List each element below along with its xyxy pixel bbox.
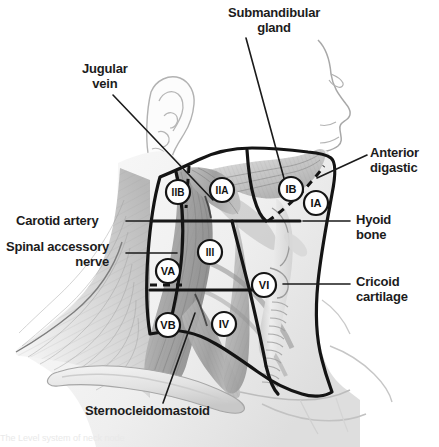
callout-hyoid-bone-line: Hyoid bbox=[356, 213, 391, 228]
level-IV[interactable]: IV bbox=[212, 312, 236, 336]
level-VA[interactable]: VA bbox=[156, 259, 180, 283]
callout-submandibular-gland-line: gland bbox=[228, 21, 320, 36]
level-IV-text: IV bbox=[219, 318, 230, 330]
level-IB[interactable]: IB bbox=[279, 177, 303, 201]
callout-jugular-vein-line: vein bbox=[82, 77, 128, 92]
callout-anterior-digastic-line: digastic bbox=[370, 161, 419, 176]
callout-spinal-accessory-nerve: Spinal accessorynerve bbox=[6, 240, 109, 269]
callout-hyoid-bone: Hyoidbone bbox=[356, 213, 391, 242]
level-IA[interactable]: IA bbox=[304, 191, 328, 215]
callout-submandibular-gland: Submandibulargland bbox=[228, 6, 320, 35]
callout-cricoid-cartilage-line: Cricoid bbox=[356, 275, 408, 290]
callout-cricoid-cartilage: Cricoidcartilage bbox=[356, 275, 408, 304]
level-VB[interactable]: VB bbox=[156, 313, 180, 337]
callout-spinal-accessory-nerve-line: Spinal accessory bbox=[6, 240, 109, 255]
level-VA-text: VA bbox=[161, 265, 176, 277]
level-IIA-text: IIA bbox=[216, 185, 229, 196]
level-IIA[interactable]: IIA bbox=[210, 178, 234, 202]
level-VB-text: VB bbox=[160, 319, 175, 331]
callout-cricoid-cartilage-line: cartilage bbox=[356, 290, 408, 305]
callout-hyoid-bone-line: bone bbox=[356, 228, 391, 243]
leader-submandibular-gland bbox=[246, 38, 285, 182]
callout-jugular-vein: Jugularvein bbox=[82, 62, 128, 91]
callout-jugular-vein-line: Jugular bbox=[82, 62, 128, 77]
trapezius-muscle bbox=[16, 168, 151, 398]
callout-sternocleidomastoid-line: Sternocleidomastoid bbox=[85, 404, 210, 419]
level-III-text: III bbox=[206, 247, 215, 258]
neck-levels-figure: IIBIIAIBIAIIIVAVIVBIV Submandibulargland… bbox=[0, 0, 439, 447]
callout-anterior-digastic: Anteriordigastic bbox=[370, 146, 419, 175]
level-VI-text: VI bbox=[259, 279, 269, 291]
callout-anterior-digastic-line: Anterior bbox=[370, 146, 419, 161]
level-IA-text: IA bbox=[311, 197, 322, 209]
callout-sternocleidomastoid: Sternocleidomastoid bbox=[85, 404, 210, 419]
callout-submandibular-gland-line: Submandibular bbox=[228, 6, 320, 21]
level-VI[interactable]: VI bbox=[252, 273, 276, 297]
level-IIB[interactable]: IIB bbox=[166, 180, 190, 204]
callout-carotid-artery-line: Carotid artery bbox=[16, 214, 98, 229]
level-IB-text: IB bbox=[286, 183, 297, 195]
callout-spinal-accessory-nerve-line: nerve bbox=[6, 255, 109, 270]
figure-caption-partial: The Level system of neck node bbox=[0, 433, 439, 447]
callout-carotid-artery: Carotid artery bbox=[16, 214, 98, 229]
head-profile bbox=[305, 40, 350, 163]
level-IIB-text: IIB bbox=[172, 187, 185, 198]
level-III[interactable]: III bbox=[198, 240, 222, 264]
